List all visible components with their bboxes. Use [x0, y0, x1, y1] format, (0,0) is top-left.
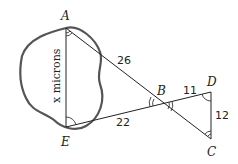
similar-triangles-diagram: A E B D C 26 22 11 12 x microns: [0, 0, 238, 164]
point-label-A: A: [60, 9, 70, 23]
length-label-BD: 11: [183, 84, 197, 97]
angle-mark-B-left: [153, 99, 154, 106]
length-label-DC: 12: [215, 109, 229, 122]
point-label-B: B: [156, 84, 166, 98]
point-label-E: E: [60, 135, 70, 149]
angle-mark-B-left-inner: [149, 97, 151, 107]
angle-mark-A-inner: [66, 31, 70, 33]
angle-mark-B-right: [168, 102, 169, 109]
angle-mark-C: [205, 131, 211, 134]
length-label-AE: x microns: [50, 48, 63, 103]
length-label-AB: 26: [117, 54, 131, 67]
angle-mark-E: [66, 117, 76, 125]
point-label-C: C: [207, 145, 216, 159]
length-label-EB: 22: [116, 116, 130, 129]
angle-mark-D: [202, 94, 211, 101]
angle-mark-A: [66, 33, 72, 36]
point-label-D: D: [206, 75, 217, 89]
